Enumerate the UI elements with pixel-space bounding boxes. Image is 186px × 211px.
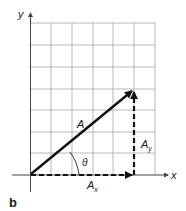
y-component-label: Ay: [140, 138, 152, 153]
grid: [30, 23, 155, 175]
vector-label: A: [76, 118, 84, 130]
y-axis-label: y: [17, 8, 25, 20]
vector-diagram: y x A θ Ax Ay b: [0, 0, 186, 211]
x-component-label: Ax: [86, 179, 98, 193]
angle-arc: [70, 152, 79, 175]
panel-label: b: [9, 195, 17, 210]
angle-label: θ: [82, 157, 88, 168]
x-axis-label: x: [170, 169, 177, 181]
